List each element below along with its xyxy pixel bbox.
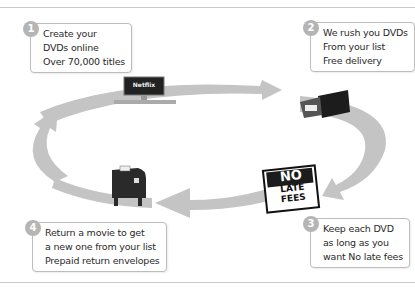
step-3-line-2: as long as you bbox=[323, 236, 403, 250]
step-3-box: 3 Keep each DVD as long as you want No l… bbox=[310, 218, 410, 268]
step-1-badge: 1 bbox=[23, 21, 39, 37]
step-4-line-3: Prepaid return envelopes bbox=[45, 254, 160, 268]
step-4-line-2: a new one from your list bbox=[45, 240, 160, 254]
step-4-badge: 4 bbox=[25, 220, 41, 236]
step-4-line-1: Return a movie to get bbox=[45, 226, 160, 240]
step-2-line-1: We rush you DVDs bbox=[323, 26, 408, 40]
step-2-badge: 2 bbox=[303, 20, 319, 36]
step-3-line-1: Keep each DVD bbox=[323, 222, 403, 236]
computer-screen-text: Netflix bbox=[124, 81, 164, 88]
sign-text: NO LATE FEES bbox=[264, 165, 319, 205]
step-2-line-2: From your list bbox=[323, 40, 408, 54]
step-1-box: 1 Create your DVDs online Over 70,000 ti… bbox=[30, 23, 132, 73]
step-2-line-3: Free delivery bbox=[323, 54, 408, 68]
arrow-left bbox=[33, 108, 68, 182]
step-1-line-2: DVDs online bbox=[43, 41, 125, 55]
step-1-line-3: Over 70,000 titles bbox=[43, 55, 125, 69]
step-4-box: 4 Return a movie to get a new one from y… bbox=[32, 222, 167, 272]
step-1-line-1: Create your bbox=[43, 27, 125, 41]
step-3-badge: 3 bbox=[303, 216, 319, 232]
step-3-line-3: want No late fees bbox=[323, 250, 403, 264]
step-2-box: 2 We rush you DVDs From your list Free d… bbox=[310, 22, 415, 72]
